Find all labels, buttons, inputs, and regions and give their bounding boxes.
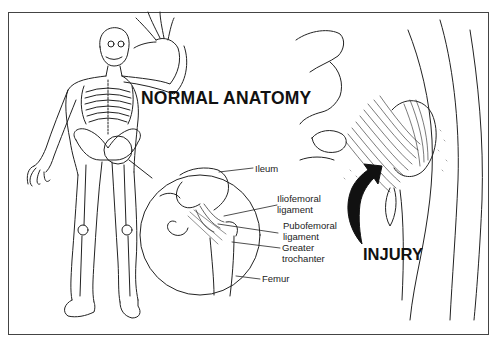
anatomy-illustration	[0, 0, 500, 348]
injury-arrow-icon	[348, 164, 382, 244]
label-iliofemoral-line1: Iliofemoral	[277, 193, 321, 204]
label-greater-trochanter: Greater trochanter	[282, 242, 325, 264]
label-pubofemoral-ligament: Pubofemoral ligament	[283, 220, 337, 242]
callout-line	[129, 160, 152, 178]
injury-title: INJURY	[363, 245, 423, 264]
label-pubofemoral-line1: Pubofemoral	[283, 220, 337, 231]
label-greater-line1: Greater	[282, 242, 325, 253]
body-figure	[27, 12, 187, 318]
injury-closeup	[296, 20, 482, 320]
label-ileum: Ileum	[255, 163, 278, 174]
label-pubofemoral-line2: ligament	[283, 231, 337, 242]
normal-anatomy-title: NORMAL ANATOMY	[141, 88, 311, 109]
label-greater-line2: trochanter	[282, 253, 325, 264]
label-iliofemoral-line2: ligament	[277, 204, 321, 215]
label-femur: Femur	[262, 273, 289, 284]
label-leaders	[218, 168, 280, 279]
label-iliofemoral-ligament: Iliofemoral ligament	[277, 193, 321, 215]
